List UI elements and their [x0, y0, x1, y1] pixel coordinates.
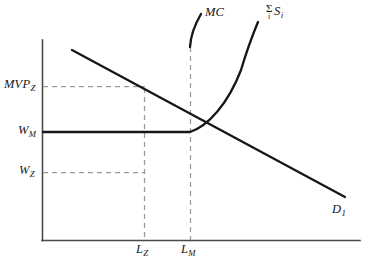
supply-curve-sum-si — [190, 22, 258, 132]
economics-diagram-figure: MVPZ WM WZ LZ LM MC ΣiSi D1 — [0, 0, 371, 266]
demand-curve-d1 — [72, 50, 345, 197]
x-label-l-z-sub: Z — [143, 248, 148, 258]
curve-label-sum-si: ΣiSi — [266, 3, 283, 21]
x-label-l-m: LM — [181, 243, 196, 258]
diagram-canvas — [0, 0, 371, 266]
x-label-l-z: LZ — [136, 243, 148, 258]
y-label-mvp-z-sub: Z — [30, 83, 35, 93]
y-label-mvp-z-base: MVP — [4, 77, 30, 91]
supply-term-sub: i — [281, 10, 284, 20]
supply-term-base: S — [274, 4, 280, 18]
y-label-w-m-base: W — [18, 123, 29, 137]
x-label-l-m-sub: M — [188, 248, 196, 258]
curve-label-mc: MC — [205, 6, 224, 19]
y-label-w-m: WM — [18, 124, 36, 139]
curve-label-d1-base: D — [332, 202, 341, 216]
y-label-mvp-z: MVPZ — [4, 78, 36, 93]
y-label-w-m-sub: M — [29, 129, 37, 139]
supply-term: Si — [274, 5, 283, 20]
curve-label-d1-sub: 1 — [341, 208, 346, 218]
marginal-cost-curve-mc — [190, 14, 201, 47]
y-label-w-z-sub: Z — [30, 169, 35, 179]
y-label-w-z-base: W — [19, 163, 30, 177]
summation-operator: Σi — [266, 3, 273, 21]
curve-label-d1: D1 — [332, 203, 346, 218]
sigma-index: i — [266, 13, 273, 21]
y-label-w-z: WZ — [19, 164, 35, 179]
